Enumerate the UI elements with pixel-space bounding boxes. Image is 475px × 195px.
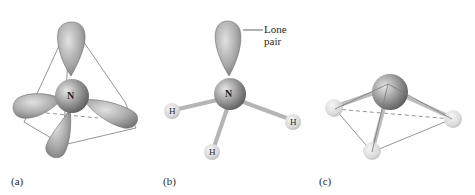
panel-a: N (a) — [11, 22, 138, 188]
hydrogen-label-left: H — [169, 106, 176, 116]
panel-c: (c) — [319, 74, 462, 188]
hydrogen-atom-left — [325, 99, 343, 117]
lone-pair-label-line1: Lone — [264, 23, 287, 35]
panel-c-label: (c) — [319, 175, 332, 188]
bond-front — [213, 106, 228, 150]
nitrogen-label: N — [225, 88, 233, 99]
ammonia-geometry-figure: N (a) Lone pair N H H H (b) — [0, 0, 475, 195]
lone-pair-label-line2: pair — [264, 35, 281, 47]
lone-pair-lobe — [215, 21, 241, 76]
nitrogen-label: N — [67, 90, 75, 101]
hydrogen-atom-right — [444, 110, 462, 128]
panel-b-label: (b) — [163, 175, 176, 188]
bond-right — [238, 100, 292, 120]
orbital-lobe-front — [46, 108, 71, 158]
orbital-lobe-top — [58, 22, 86, 76]
hydrogen-label-right: H — [290, 117, 297, 127]
panel-b: Lone pair N H H H (b) — [163, 21, 301, 188]
orbital-lobe-left — [13, 94, 62, 119]
hydrogen-label-front: H — [209, 147, 216, 157]
orbital-lobe-right — [84, 100, 138, 129]
panel-a-label: (a) — [11, 175, 24, 188]
